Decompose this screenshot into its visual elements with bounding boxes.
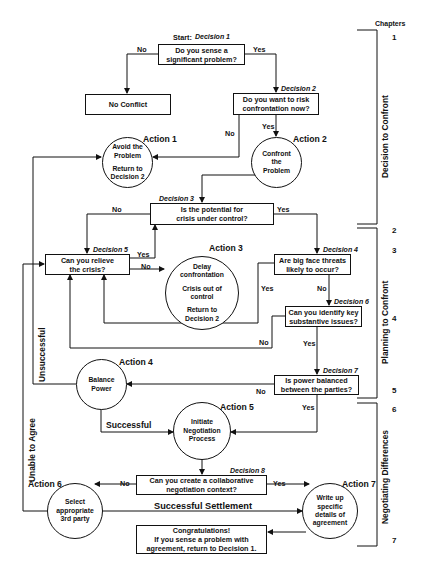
action-6-text: Select xyxy=(65,498,85,506)
action-5-text: Negotiation xyxy=(183,427,220,435)
action-7-text: Write up xyxy=(316,494,343,502)
action-3-text: Return to xyxy=(187,306,217,314)
congrats-line2: If you sense a problem with xyxy=(154,535,248,544)
chapters-header: Chapters xyxy=(375,20,405,27)
d5-no-label: No xyxy=(141,262,151,271)
phase-decision-to-confront: Decision to Confront xyxy=(380,95,390,178)
decision-7-text-line2: between the parties? xyxy=(281,385,353,394)
d5-yes-label: Yes xyxy=(137,250,149,259)
action-3-label: Action 3 xyxy=(209,243,243,253)
decision-2-box: Do you want to risk confrontation now? xyxy=(233,93,319,115)
decision-4-text-line1: Are big face threats xyxy=(279,256,346,265)
decision-6-text-line2: substantive issues? xyxy=(289,317,358,326)
decision-6-label: Decision 6 xyxy=(334,298,369,305)
decision-8-box: Can you create a collaborative negotiati… xyxy=(136,475,267,495)
d1-yes-label: Yes xyxy=(253,45,265,54)
congrats-line1: Congratulations! xyxy=(173,526,231,535)
chapter-7: 7 xyxy=(392,536,396,545)
action-1-text: Problem xyxy=(114,152,141,160)
decision-1-label: Decision 1 xyxy=(195,33,230,40)
action-3-text: Crisis out of xyxy=(182,285,222,293)
decision-3-label: Decision 3 xyxy=(159,195,194,202)
d2-no-label: No xyxy=(225,129,235,138)
d6-yes-label: Yes xyxy=(303,339,315,348)
d4-no-label: No xyxy=(317,284,327,293)
action-4-label: Action 4 xyxy=(119,357,153,367)
action-2-label: Action 2 xyxy=(293,134,327,144)
decision-2-label: Decision 2 xyxy=(281,85,316,92)
action-2-text: Problem xyxy=(263,167,290,175)
action-1-circle: Avoid the Problem Return to Decision 2 xyxy=(102,137,153,188)
chapter-6: 6 xyxy=(392,405,396,414)
decision-4-label: Decision 4 xyxy=(323,246,358,253)
action-6-text: appropriate xyxy=(56,507,93,515)
no-conflict-box: No Conflict xyxy=(85,94,171,115)
d3-no-label: No xyxy=(112,205,122,214)
action-5-text: Initiate xyxy=(191,418,213,426)
decision-5-text-line2: the crisis? xyxy=(70,265,106,274)
unable-to-agree-label: Unable to Agree xyxy=(27,418,37,482)
action-5-text: Process xyxy=(189,435,215,443)
action-7-text: specific xyxy=(317,503,342,511)
phase-negotiating-differences: Negotiating Differences xyxy=(380,430,390,524)
d7-no-label: No xyxy=(256,387,266,396)
d1-no-label: No xyxy=(137,45,147,54)
d8-no-label: No xyxy=(120,479,130,488)
unsuccessful-label: Unsuccessful xyxy=(37,328,47,382)
d3-yes-label: Yes xyxy=(277,205,289,214)
action-1-text: Return to xyxy=(112,165,142,173)
action-3-circle: Delay confrontation Crisis out of contro… xyxy=(165,256,239,330)
decision-5-box: Can you relieve the crisis? xyxy=(45,254,130,275)
decision-1-box: Do you sense a significant problem? xyxy=(158,44,245,65)
d2-yes-label: Yes xyxy=(262,122,274,131)
decision-3-text-line1: Is the potential for xyxy=(181,205,243,214)
action-5-circle: Initiate Negotiation Process xyxy=(173,402,231,460)
action-3-text: confrontation xyxy=(180,271,224,279)
start-label: Start: xyxy=(173,33,192,42)
action-1-label: Action 1 xyxy=(143,134,177,144)
decision-5-text-line1: Can you relieve xyxy=(61,256,114,265)
action-4-text: Balance xyxy=(88,376,114,384)
successful-label: Successful xyxy=(106,420,151,430)
chapter-1: 1 xyxy=(392,33,396,42)
action-5-label: Action 5 xyxy=(220,402,254,412)
successful-settlement-label: Successful Settlement xyxy=(154,501,252,511)
action-2-text: Confront xyxy=(262,150,291,158)
action-1-text: Avoid the xyxy=(112,143,143,151)
congrats-line3: agreement, return to Decision 1. xyxy=(147,544,257,553)
decision-2-text-line1: Do you want to risk xyxy=(243,95,309,104)
decision-7-box: Is power balanced between the parties? xyxy=(274,375,359,395)
action-1-text: Decision 2 xyxy=(111,173,145,181)
decision-8-label: Decision 8 xyxy=(230,467,265,474)
decision-3-text-line2: crisis under control? xyxy=(176,214,248,223)
action-4-text: Power xyxy=(91,385,111,393)
chapter-3: 3 xyxy=(392,246,396,255)
decision-5-label: Decision 5 xyxy=(93,246,128,253)
phase-planning-to-confront: Planning to Confront xyxy=(380,281,390,364)
d8-yes-label: Yes xyxy=(273,479,285,488)
action-2-text: the xyxy=(271,158,281,166)
action-7-label: Action 7 xyxy=(342,479,376,489)
decision-3-box: Is the potential for crisis under contro… xyxy=(150,203,274,225)
chapter-2: 2 xyxy=(392,226,396,235)
action-6-text: 3rd party xyxy=(60,515,89,523)
decision-7-label: Decision 7 xyxy=(323,367,358,374)
d4-yes-label: Yes xyxy=(261,284,273,293)
decision-1-text-line2: significant problem? xyxy=(166,55,237,64)
action-2-circle: Confront the Problem xyxy=(251,137,302,188)
action-6-label: Action 6 xyxy=(28,479,62,489)
decision-1-text-line1: Do you sense a xyxy=(175,46,228,55)
decision-4-box: Are big face threats likely to occur? xyxy=(274,254,351,275)
action-4-circle: Balance Power xyxy=(76,359,127,410)
action-6-circle: Select appropriate 3rd party xyxy=(47,483,103,539)
congratulations-box: Congratulations! If you sense a problem … xyxy=(136,525,267,554)
action-7-text: agreement xyxy=(313,519,347,527)
decision-4-text-line2: likely to occur? xyxy=(286,265,339,274)
decision-6-text-line1: Can you identify key xyxy=(289,308,359,317)
action-3-text: Delay xyxy=(193,263,211,271)
decision-2-text-line2: confrontation now? xyxy=(242,104,309,113)
action-7-circle: Write up specific details of agreement xyxy=(302,483,358,539)
d6-no-label: No xyxy=(259,338,269,347)
decision-8-text-line1: Can you create a collaborative xyxy=(150,476,254,485)
action-3-text: Decision 2 xyxy=(185,315,219,323)
